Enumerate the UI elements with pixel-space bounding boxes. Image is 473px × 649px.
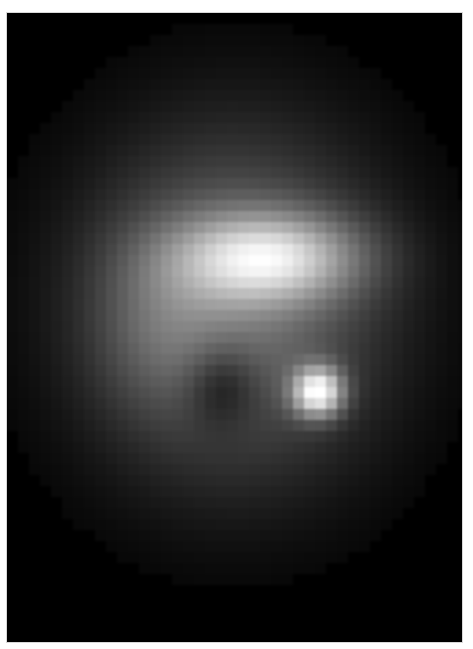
image-pixel-block: [227, 431, 238, 442]
image-pixel-block: [293, 519, 304, 530]
image-pixel-block: [326, 79, 337, 90]
image-pixel-block: [29, 464, 40, 475]
image-pixel-block: [183, 563, 194, 574]
image-pixel-block: [73, 343, 84, 354]
image-pixel-block: [84, 343, 95, 354]
image-pixel-block: [436, 365, 447, 376]
image-pixel-block: [40, 398, 51, 409]
image-pixel-block: [128, 398, 139, 409]
image-pixel-block: [315, 101, 326, 112]
image-pixel-block: [271, 530, 282, 541]
image-pixel-block: [447, 299, 458, 310]
image-pixel-block: [381, 431, 392, 442]
image-pixel-block: [282, 266, 293, 277]
image-pixel-block: [271, 134, 282, 145]
image-pixel-block: [403, 233, 414, 244]
image-pixel-block: [172, 288, 183, 299]
image-pixel-block: [128, 332, 139, 343]
image-pixel-block: [194, 145, 205, 156]
image-pixel-block: [348, 68, 359, 79]
image-pixel-block: [260, 420, 271, 431]
image-pixel-block: [304, 211, 315, 222]
image-pixel-block: [326, 497, 337, 508]
image-pixel-block: [293, 453, 304, 464]
image-pixel-block: [436, 354, 447, 365]
image-pixel-block: [106, 299, 117, 310]
image-pixel-block: [216, 431, 227, 442]
image-pixel-block: [260, 222, 271, 233]
image-pixel-block: [216, 387, 227, 398]
image-pixel-block: [51, 420, 62, 431]
image-pixel-block: [260, 563, 271, 574]
image-pixel-block: [271, 145, 282, 156]
image-pixel-block: [425, 277, 436, 288]
image-pixel-block: [447, 189, 458, 200]
image-pixel-block: [304, 332, 315, 343]
image-pixel-block: [7, 189, 18, 200]
image-pixel-block: [293, 552, 304, 563]
image-pixel-block: [40, 145, 51, 156]
image-pixel-block: [359, 277, 370, 288]
image-pixel-block: [315, 145, 326, 156]
image-pixel-block: [271, 376, 282, 387]
image-pixel-block: [161, 343, 172, 354]
image-pixel-block: [139, 288, 150, 299]
image-pixel-block: [95, 266, 106, 277]
image-pixel-block: [326, 189, 337, 200]
image-pixel-block: [238, 497, 249, 508]
image-pixel-block: [436, 420, 447, 431]
image-pixel-block: [238, 552, 249, 563]
image-pixel-block: [205, 200, 216, 211]
image-pixel-block: [194, 156, 205, 167]
image-pixel-block: [293, 178, 304, 189]
image-pixel-block: [106, 541, 117, 552]
image-pixel-block: [348, 398, 359, 409]
image-pixel-block: [403, 321, 414, 332]
image-pixel-block: [128, 233, 139, 244]
image-pixel-block: [216, 453, 227, 464]
image-pixel-block: [260, 79, 271, 90]
image-pixel-block: [18, 398, 29, 409]
image-pixel-block: [359, 123, 370, 134]
image-pixel-block: [271, 354, 282, 365]
image-pixel-block: [227, 255, 238, 266]
image-pixel-block: [161, 35, 172, 46]
image-pixel-block: [271, 343, 282, 354]
image-pixel-block: [161, 68, 172, 79]
image-pixel-block: [7, 354, 18, 365]
image-pixel-block: [161, 321, 172, 332]
image-pixel-block: [359, 354, 370, 365]
image-pixel-block: [139, 486, 150, 497]
image-pixel-block: [84, 134, 95, 145]
image-pixel-block: [7, 200, 18, 211]
image-pixel-block: [370, 90, 381, 101]
image-pixel-block: [150, 134, 161, 145]
image-pixel-block: [260, 431, 271, 442]
image-pixel-block: [205, 354, 216, 365]
image-pixel-block: [260, 365, 271, 376]
image-pixel-block: [205, 519, 216, 530]
image-pixel-block: [106, 277, 117, 288]
image-pixel-block: [183, 101, 194, 112]
image-pixel-block: [282, 321, 293, 332]
image-pixel-block: [106, 442, 117, 453]
image-pixel-block: [447, 255, 458, 266]
image-pixel-block: [150, 145, 161, 156]
image-pixel-block: [29, 354, 40, 365]
image-pixel-block: [117, 57, 128, 68]
image-pixel-block: [150, 79, 161, 90]
image-pixel-block: [403, 332, 414, 343]
image-pixel-block: [381, 409, 392, 420]
image-pixel-block: [172, 222, 183, 233]
image-pixel-block: [414, 266, 425, 277]
image-pixel-block: [458, 398, 462, 409]
image-pixel-block: [282, 354, 293, 365]
image-pixel-block: [348, 277, 359, 288]
image-pixel-block: [139, 409, 150, 420]
image-pixel-block: [370, 156, 381, 167]
image-pixel-block: [425, 420, 436, 431]
image-pixel-block: [150, 442, 161, 453]
image-pixel-block: [40, 464, 51, 475]
image-pixel-block: [29, 310, 40, 321]
image-pixel-block: [436, 178, 447, 189]
